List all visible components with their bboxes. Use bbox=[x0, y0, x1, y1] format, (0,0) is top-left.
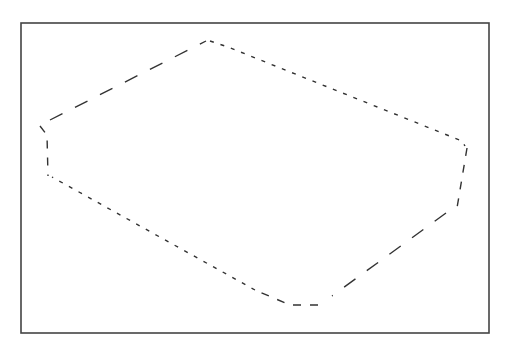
left-side bbox=[40, 126, 48, 176]
right-side bbox=[457, 148, 467, 208]
top-left-edge bbox=[50, 41, 206, 120]
dashed-polygon-shape bbox=[40, 41, 467, 305]
diagram-canvas bbox=[0, 0, 507, 338]
bottom-right-edge bbox=[332, 213, 446, 296]
diagram-frame bbox=[21, 23, 489, 333]
bottom-left-edge bbox=[52, 177, 255, 290]
bottom-curve bbox=[255, 290, 318, 305]
top-right-edge bbox=[210, 41, 465, 146]
